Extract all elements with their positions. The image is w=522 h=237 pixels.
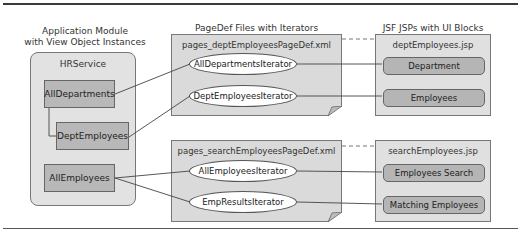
link-iterator-matching-employees [297,202,382,204]
bottom-rule [3,228,518,229]
link-deptemployees-iterator [129,96,190,137]
link-alldepartments-iterator [115,64,190,94]
vo-hierarchy-connector [49,108,56,136]
link-empresults-iterator [115,178,190,202]
link-allemployees-iterator [115,171,190,178]
link-iterator-employees-search [297,171,382,172]
connector-lines [0,0,522,237]
